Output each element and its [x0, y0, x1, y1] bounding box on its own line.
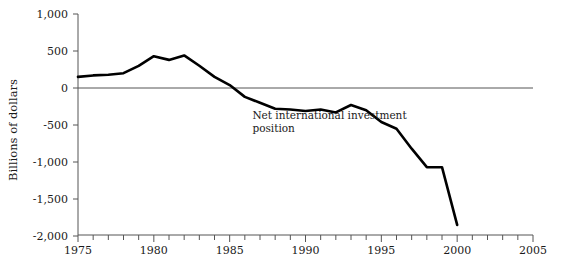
y-axis-tick-label: -1,500 [33, 193, 68, 206]
y-axis-tick-label: 1,000 [37, 8, 69, 21]
y-axis-tick-label: -1,000 [33, 156, 68, 169]
y-axis-tick-label: -2,000 [33, 230, 68, 243]
x-axis-tick-label: 2005 [519, 244, 547, 257]
x-axis-tick-label: 2000 [443, 244, 471, 257]
x-axis-tick-label: 1995 [367, 244, 395, 257]
chart-annotations: Net international investmentposition [252, 109, 407, 134]
net-investment-position-line-chart: Billions of dollars 1,0005000-500-1,000-… [0, 0, 562, 260]
annotation-line: Net international investment [252, 109, 407, 121]
annotation-line: position [252, 122, 295, 134]
x-axis-tick-label: 1990 [292, 244, 320, 257]
x-axis-tick-label: 1975 [64, 244, 92, 257]
chart-container: Billions of dollars 1,0005000-500-1,000-… [0, 0, 562, 260]
x-axis-tick-labels: 1975198019851990199520002005 [64, 244, 547, 257]
x-axis-tick-label: 1985 [216, 244, 244, 257]
y-axis-tick-label: -500 [43, 119, 68, 132]
y-axis-tick-label: 500 [47, 45, 68, 58]
y-axis-tick-labels: 1,0005000-500-1,000-1,500-2,000 [33, 8, 68, 243]
net-investment-position-line [78, 55, 457, 224]
y-axis-tick-label: 0 [61, 82, 68, 95]
series-label: Net international investmentposition [252, 109, 407, 134]
x-axis-ticks [78, 235, 533, 242]
y-axis-label: Billions of dollars [6, 79, 20, 181]
x-axis-tick-label: 1980 [140, 244, 168, 257]
y-axis-ticks [73, 14, 78, 236]
